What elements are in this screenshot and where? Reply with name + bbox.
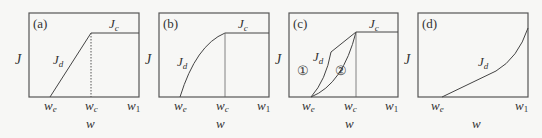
panel-b-y-label: J xyxy=(145,52,152,67)
panel-a-tick-we: we xyxy=(44,98,57,114)
panel-a-x-label: w xyxy=(86,116,95,131)
panel-c-label: (c) xyxy=(293,16,307,31)
panel-c-tick-wc: wc xyxy=(344,98,357,114)
panel-a-jc-label: Jc xyxy=(109,16,119,33)
panel-d-tick-w1: w1 xyxy=(515,98,528,114)
panel-d-tick-we: we xyxy=(431,98,444,114)
panel-c-jd-curve-1 xyxy=(311,32,356,97)
panel-a: (a) J Jd Jc we wc w1 w xyxy=(15,13,140,131)
panel-a-y-label: J xyxy=(15,52,22,67)
panel-d-x-label: w xyxy=(472,116,481,131)
panel-a-label: (a) xyxy=(33,16,47,31)
panel-c: (c) J Jd Jc ① ② we wc w1 w xyxy=(275,13,398,131)
panel-b-tick-we: we xyxy=(174,98,187,114)
panel-c-marker-2: ② xyxy=(335,63,347,78)
panel-c-y-label: J xyxy=(275,52,282,67)
panel-a-tick-w1: w1 xyxy=(127,98,140,114)
panel-d-label: (d) xyxy=(422,16,437,31)
panel-c-marker-1: ① xyxy=(297,63,309,78)
panel-a-tick-wc: wc xyxy=(85,98,98,114)
panel-b: (b) J Jd Jc we wc w1 w xyxy=(145,13,270,131)
panel-d-jd-label: Jd xyxy=(478,54,489,71)
panel-d-y-label: J xyxy=(404,52,411,67)
panel-c-tick-w1: w1 xyxy=(385,98,398,114)
panel-a-jd-label: Jd xyxy=(53,52,64,69)
panel-b-tick-w1: w1 xyxy=(257,98,270,114)
panel-c-jc-label: Jc xyxy=(369,16,379,33)
panel-b-x-label: w xyxy=(216,116,225,131)
panel-b-label: (b) xyxy=(163,16,178,31)
panel-c-x-label: w xyxy=(345,116,354,131)
panel-b-tick-wc: wc xyxy=(216,98,229,114)
panel-b-jd-label: Jd xyxy=(177,54,188,71)
panel-b-jc-label: Jc xyxy=(238,16,248,33)
panel-c-jd-label: Jd xyxy=(313,49,324,66)
panel-d: (d) J Jd we w1 w xyxy=(404,13,528,131)
panel-c-tick-we: we xyxy=(302,98,315,114)
figure-canvas: (a) J Jd Jc we wc w1 w (b) J Jd Jc we wc… xyxy=(0,0,542,138)
